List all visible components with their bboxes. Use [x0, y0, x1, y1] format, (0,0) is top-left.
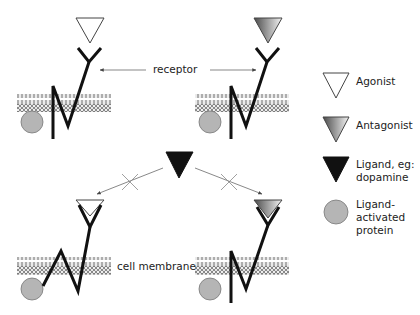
ligand-triangle-icon	[166, 152, 193, 178]
legend-ligand-label: Ligand, eg: dopamine	[356, 158, 418, 184]
antagonist-triangle-icon	[323, 117, 349, 142]
receptor-label: receptor	[153, 63, 197, 76]
agonist-triangle-icon	[76, 18, 104, 43]
legend-protein-label: Ligand-activated protein	[356, 198, 412, 237]
arrow-to-bottom-left	[97, 168, 163, 194]
protein-circle-icon	[199, 111, 221, 133]
legend-agonist-label: Agonist	[356, 75, 416, 88]
cross-icon	[122, 174, 138, 190]
protein-circle-icon	[199, 278, 221, 300]
legend-antagonist-label: Antagonist	[356, 119, 420, 132]
panel-bottom-left	[17, 200, 111, 300]
cross-icon	[221, 174, 237, 190]
agonist-triangle-icon	[323, 73, 349, 98]
panel-top-right	[195, 18, 289, 139]
antagonist-triangle-icon	[254, 18, 282, 43]
ligand-triangle-icon	[323, 157, 349, 182]
cell-membrane	[195, 94, 289, 112]
center-ligand-group	[97, 152, 262, 194]
panel-top-left	[17, 18, 111, 139]
cell-membrane	[17, 94, 111, 112]
protein-circle-icon	[324, 200, 348, 224]
receptor-icon	[256, 48, 279, 62]
receptor-icon	[78, 48, 101, 62]
legend-icons	[323, 73, 349, 224]
protein-circle-icon	[21, 278, 43, 300]
panel-bottom-right	[195, 200, 289, 303]
cell-membrane-label: cell membrane	[117, 260, 196, 273]
cell-membrane	[195, 257, 289, 275]
protein-circle-icon	[21, 111, 43, 133]
